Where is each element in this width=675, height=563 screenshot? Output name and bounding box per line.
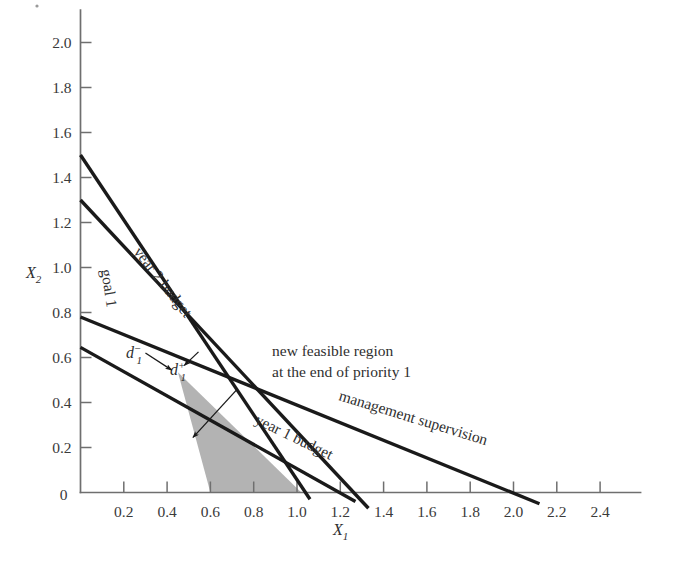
y-tick-label: 0.6 — [52, 349, 72, 366]
x-tick-label: 2.2 — [547, 503, 566, 520]
scan-speck — [35, 4, 38, 7]
x-tick-label: 1.0 — [287, 503, 307, 520]
y-axis-title: X2 — [25, 264, 42, 285]
y-tick-label: 1.8 — [52, 79, 72, 96]
x-tick-label: 1.6 — [417, 503, 437, 520]
goal-1-label: goal 1 — [98, 268, 121, 309]
y-tick-label: 0.2 — [52, 439, 71, 456]
constraint-lines — [81, 155, 540, 508]
goal-programming-figure: 0.20.40.60.81.01.21.41.61.82.00.20.40.60… — [0, 0, 675, 563]
x-tick-label: 0.8 — [244, 503, 264, 520]
origin-label: 0 — [60, 486, 68, 503]
d1-plus-label: d+1 — [170, 359, 186, 383]
x-tick-label: 0.2 — [114, 503, 133, 520]
y-tick-label: 1.6 — [52, 124, 72, 141]
x-tick-label: 1.2 — [331, 503, 350, 520]
y-tick-label: 1.2 — [52, 214, 71, 231]
x-tick-label: 1.8 — [461, 503, 481, 520]
x-tick-label: 0.6 — [201, 503, 221, 520]
deviation-arrow — [145, 353, 171, 370]
year-2-budget-label: year 2 budget — [131, 243, 197, 320]
y-tick-label: 0.4 — [52, 394, 72, 411]
management-supervision-label: management supervision — [337, 387, 490, 449]
x-tick-label: 1.4 — [374, 503, 394, 520]
constraint-line — [81, 155, 310, 499]
x-axis-title: X1 — [332, 521, 348, 542]
feasible-region-callout-line2: at the end of priority 1 — [272, 363, 411, 380]
y-tick-label: 1.0 — [52, 259, 72, 276]
x-tick-label: 0.4 — [157, 503, 177, 520]
x-tick-label: 2.4 — [590, 503, 610, 520]
y-tick-label: 2.0 — [52, 34, 72, 51]
chart-svg: 0.20.40.60.81.01.21.41.61.82.00.20.40.60… — [0, 0, 675, 563]
feasible-region-callout-line1: new feasible region — [272, 342, 394, 359]
y-tick-label: 0.8 — [52, 304, 72, 321]
x-tick-label: 2.0 — [504, 503, 524, 520]
y-tick-label: 1.4 — [52, 169, 72, 186]
d1-minus-label: d−1 — [126, 342, 142, 366]
year-1-budget-label: year 1 budget — [253, 410, 337, 463]
